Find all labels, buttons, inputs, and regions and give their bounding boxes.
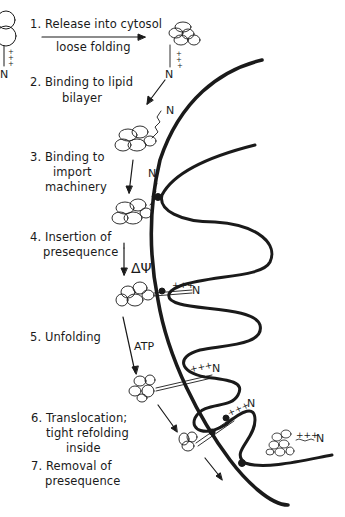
loosely-folded-protein-icon (169, 22, 200, 67)
mitochondria-import-diagram: + + + + + + (0, 0, 345, 517)
svg-text:+: + (177, 62, 183, 70)
translocating-protein-icon (179, 415, 234, 451)
step-5-arrow (123, 317, 135, 372)
unfolding-protein-icon (129, 375, 212, 402)
contact-site (239, 460, 246, 467)
contact-site (155, 194, 162, 201)
inner-membrane-cristae (162, 145, 332, 465)
svg-text:+: + (8, 60, 14, 68)
refolded-protein-icon (266, 430, 294, 456)
contact-site (159, 288, 165, 294)
outer-membrane (152, 60, 289, 505)
cleaved-presequence (296, 439, 314, 441)
membrane-bound-protein-icon (115, 111, 161, 151)
